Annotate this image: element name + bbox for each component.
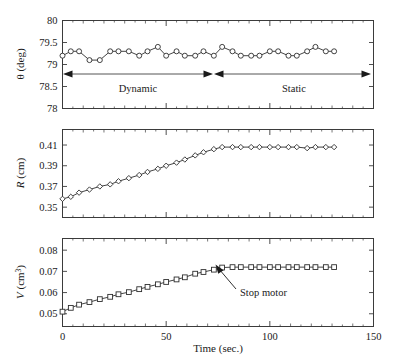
theta-panel-data-point xyxy=(145,49,150,54)
volume-panel-series xyxy=(60,265,336,314)
theta-panel-data-point xyxy=(249,53,254,58)
volume-panel-xticks xyxy=(63,239,374,327)
volume-panel-data-point xyxy=(116,292,121,297)
theta-panel-data-point xyxy=(201,49,206,54)
x-axis-title: Time (sec.) xyxy=(193,342,243,355)
volume-panel-yticks xyxy=(63,250,374,314)
radius-panel-series xyxy=(60,144,337,201)
volume-panel-data-point xyxy=(108,294,113,299)
radius-panel-data-point xyxy=(182,157,187,162)
theta-panel-data-point xyxy=(137,53,142,58)
radius-axis-title-group: R (cm) xyxy=(14,158,27,190)
dynamic-label: Dynamic xyxy=(119,83,158,94)
volume-panel-data-point xyxy=(137,287,142,292)
stop-motor-pointer-line xyxy=(219,269,236,289)
volume-axis-title: V (cm3) xyxy=(14,265,28,299)
radius-axis-title-unit: (cm) xyxy=(14,158,27,182)
theta-series-line xyxy=(63,47,335,60)
dynamic-span-arrow xyxy=(63,71,213,78)
radius-panel: 0.350.370.390.41 R (cm) xyxy=(14,130,374,218)
theta-panel-data-point xyxy=(313,44,318,49)
volume-series-line xyxy=(63,267,335,312)
theta-panel-ytick-label: 78.5 xyxy=(39,81,57,92)
radius-panel-yticks xyxy=(63,145,374,207)
volume-panel-data-point xyxy=(60,309,65,314)
theta-panel-data-point xyxy=(87,58,92,63)
volume-panel-data-point xyxy=(77,302,82,307)
volume-panel-data-point xyxy=(193,271,198,276)
radius-panel-data-point xyxy=(267,144,272,149)
volume-panel-data-point xyxy=(211,267,216,272)
volume-panel-data-point xyxy=(155,282,160,287)
radius-panel-data-point xyxy=(201,150,206,155)
volume-panel-data-point xyxy=(313,265,318,270)
radius-panel-data-point xyxy=(145,169,150,174)
volume-panel-data-point xyxy=(145,284,150,289)
theta-panel: 7878.57979.580 θ (deg) Dynamic xyxy=(14,15,374,114)
theta-panel-data-point xyxy=(182,53,187,58)
x-axis-labels: 050100150 xyxy=(60,331,382,342)
theta-series-markers xyxy=(60,44,337,62)
radius-panel-data-point xyxy=(68,194,73,199)
volume-panel-ytick-labels: 0.050.060.070.08 xyxy=(39,245,57,320)
theta-panel-data-point xyxy=(77,49,82,54)
volume-panel-data-point xyxy=(238,265,243,270)
theta-panel-data-point xyxy=(164,53,169,58)
dynamic-arrow-head-right xyxy=(204,71,214,78)
theta-panel-data-point xyxy=(294,53,299,58)
radius-panel-data-point xyxy=(174,160,179,165)
x-axis-tick-label: 150 xyxy=(366,331,382,342)
theta-panel-data-point xyxy=(211,53,216,58)
radius-series-line xyxy=(63,147,335,199)
radius-panel-data-point xyxy=(126,175,131,180)
radius-panel-data-point xyxy=(107,182,112,187)
radius-panel-data-point xyxy=(219,144,224,149)
volume-axis-title-unit: (cm xyxy=(14,272,27,292)
radius-panel-data-point xyxy=(97,184,102,189)
volume-panel-data-point xyxy=(332,265,337,270)
volume-panel-data-point xyxy=(294,265,299,270)
static-span-arrow xyxy=(214,71,371,78)
volume-panel-data-point xyxy=(164,280,169,285)
radius-panel-data-point xyxy=(275,144,280,149)
radius-panel-data-point xyxy=(155,166,160,171)
volume-panel-data-point xyxy=(68,305,73,310)
stop-motor-label: Stop motor xyxy=(240,287,287,298)
theta-panel-ytick-label: 79.5 xyxy=(39,37,57,48)
theta-panel-data-point xyxy=(155,44,160,49)
radius-panel-data-point xyxy=(304,145,309,150)
static-label: Static xyxy=(282,83,306,94)
theta-panel-ytick-labels: 7878.57979.580 xyxy=(39,15,57,114)
volume-panel-ytick-label: 0.06 xyxy=(39,287,57,298)
volume-axis-title-close: ) xyxy=(14,265,27,269)
theta-panel-data-point xyxy=(174,49,179,54)
theta-panel-data-point xyxy=(60,53,65,58)
static-arrow-head-right xyxy=(362,71,372,78)
radius-panel-data-point xyxy=(323,144,328,149)
x-axis-tick-label: 0 xyxy=(60,331,65,342)
volume-panel-data-point xyxy=(276,265,281,270)
dynamic-arrow-head-left xyxy=(63,71,73,78)
theta-panel-data-point xyxy=(220,44,225,49)
radius-panel-data-point xyxy=(116,179,121,184)
theta-panel-ytick-label: 79 xyxy=(47,59,58,70)
theta-axis-title: θ (deg) xyxy=(14,48,27,80)
radius-panel-data-point xyxy=(192,153,197,158)
radius-panel-data-point xyxy=(230,144,235,149)
radius-panel-data-point xyxy=(238,144,243,149)
radius-panel-data-point xyxy=(286,144,291,149)
radius-panel-xticks xyxy=(63,130,374,218)
theta-axis-title-group: θ (deg) xyxy=(14,48,27,80)
theta-panel-xticks xyxy=(63,21,374,109)
three-panel-time-series-figure: 7878.57979.580 θ (deg) Dynamic xyxy=(0,0,398,359)
volume-panel-data-point xyxy=(267,265,272,270)
theta-panel-data-point xyxy=(193,53,198,58)
volume-panel: 0.050.060.070.08 V (cm3) Stop motor 0501… xyxy=(14,239,382,356)
volume-axis-title-group: V (cm3) xyxy=(14,265,28,299)
volume-panel-ytick-label: 0.07 xyxy=(39,266,57,277)
radius-panel-ytick-label: 0.39 xyxy=(39,160,57,171)
radius-panel-ytick-label: 0.35 xyxy=(39,202,57,213)
volume-panel-data-point xyxy=(87,300,92,305)
theta-panel-ytick-label: 78 xyxy=(47,103,58,114)
radius-panel-ytick-label: 0.41 xyxy=(39,140,57,151)
